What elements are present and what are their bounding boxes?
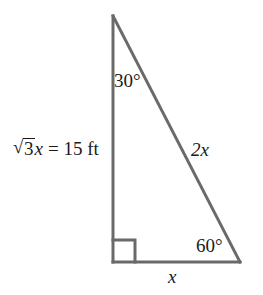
equals-measurement: = 15 ft [48,139,99,158]
variable-x-left: x [35,139,43,158]
angle-label-60: 60° [196,236,223,255]
radicand-value: 3 [23,138,35,159]
angle-label-30: 30° [114,71,141,90]
side-label-horizontal-leg: x [168,267,176,286]
geometry-figure: 30° 60° √ 3 x = 15 ft 2x x [0,0,263,295]
side-label-vertical-leg: √ 3 x = 15 ft [13,138,99,159]
radical-sign-icon: √ [13,137,23,156]
triangle-hypotenuse [113,16,240,262]
square-root-expression: √ 3 [13,138,35,159]
side-label-hypotenuse: 2x [191,140,209,159]
right-angle-marker-icon [113,240,135,262]
